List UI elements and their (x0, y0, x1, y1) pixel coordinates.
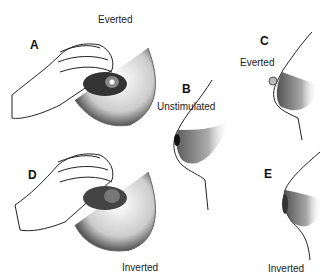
panel-e-art (282, 152, 322, 260)
panel-a-art (12, 44, 155, 126)
panel-b-art (174, 80, 230, 210)
panel-a-caption: Everted (98, 14, 132, 25)
panel-c-letter: C (260, 34, 269, 48)
panel-b-letter: B (182, 82, 191, 96)
panel-e-caption: Inverted (268, 263, 304, 274)
panel-e-letter: E (264, 167, 272, 181)
illustration-art (0, 0, 329, 280)
panel-c-caption: Everted (240, 57, 274, 68)
panel-b-caption: Unstimulated (157, 101, 215, 112)
panel-a-letter: A (30, 38, 39, 52)
panel-d-caption: Inverted (122, 262, 158, 273)
nipple-eversion-diagram: A Everted B Unstimulated C Everted D Inv… (0, 0, 329, 280)
panel-d-letter: D (28, 168, 37, 182)
panel-c-art (269, 32, 318, 140)
